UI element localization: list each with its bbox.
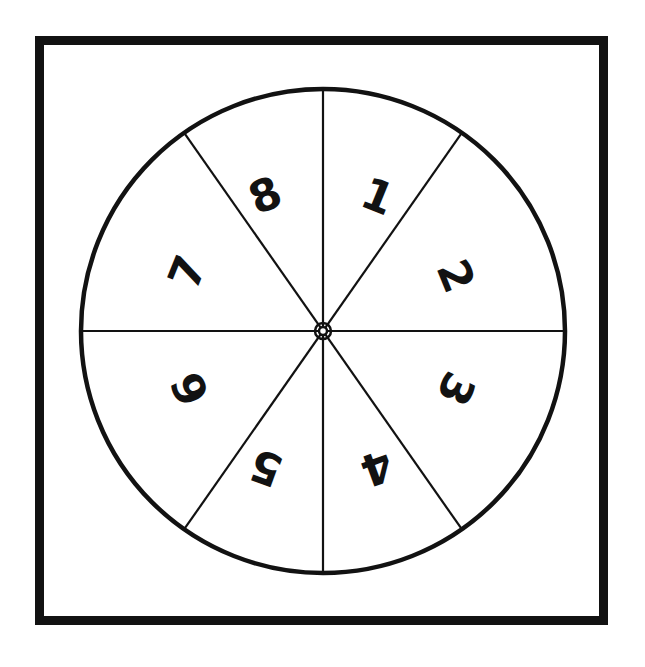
hub-inner-ring: [319, 327, 327, 335]
page-canvas: 12345678: [0, 0, 645, 667]
spinner-figure: 12345678: [0, 0, 645, 667]
